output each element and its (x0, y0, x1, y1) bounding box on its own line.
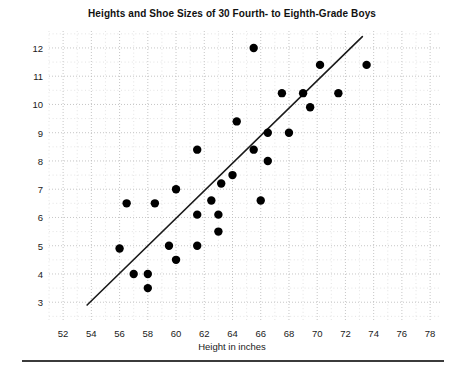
y-tick-label: 3 (17, 297, 43, 308)
y-tick-label: 8 (17, 155, 43, 166)
y-tick-label: 4 (17, 268, 43, 279)
data-point (334, 89, 342, 97)
data-point (214, 210, 222, 218)
data-point (278, 89, 286, 97)
chart-title: Heights and Shoe Sizes of 30 Fourth- to … (0, 8, 464, 19)
y-tick-label: 11 (17, 71, 43, 82)
scatter-plot-figure: Heights and Shoe Sizes of 30 Fourth- to … (0, 0, 464, 367)
data-point (362, 61, 370, 69)
data-point (264, 157, 272, 165)
x-tick-label: 62 (199, 328, 210, 339)
x-tick-label: 74 (368, 328, 379, 339)
y-tick-label: 12 (17, 42, 43, 53)
x-tick-label: 58 (143, 328, 154, 339)
data-point (122, 199, 130, 207)
data-point (115, 244, 123, 252)
data-point (249, 145, 257, 153)
x-tick-label: 68 (284, 328, 295, 339)
data-point (193, 145, 201, 153)
data-point (257, 196, 265, 204)
data-point (129, 270, 137, 278)
data-point (207, 196, 215, 204)
plot-area (49, 31, 440, 322)
data-point (217, 179, 225, 187)
bottom-divider (22, 360, 444, 362)
x-axis-label: Height in inches (0, 341, 464, 352)
data-point (151, 199, 159, 207)
data-point (144, 284, 152, 292)
x-tick-label: 66 (255, 328, 266, 339)
data-point (228, 171, 236, 179)
data-point (249, 44, 257, 52)
data-point (193, 242, 201, 250)
x-tick-label: 72 (340, 328, 351, 339)
data-point (316, 61, 324, 69)
x-tick-label: 78 (425, 328, 436, 339)
y-tick-label: 6 (17, 212, 43, 223)
data-point (285, 129, 293, 137)
x-tick-label: 64 (227, 328, 238, 339)
y-tick-label: 5 (17, 240, 43, 251)
x-tick-label: 54 (86, 328, 97, 339)
x-tick-label: 76 (397, 328, 408, 339)
trend-line (87, 37, 362, 305)
data-point (144, 270, 152, 278)
data-layer (49, 31, 440, 322)
data-point (172, 185, 180, 193)
data-point (165, 242, 173, 250)
data-point (233, 117, 241, 125)
x-tick-label: 56 (114, 328, 125, 339)
data-point (306, 103, 314, 111)
x-tick-label: 52 (58, 328, 69, 339)
y-tick-label: 9 (17, 127, 43, 138)
y-tick-label: 10 (17, 99, 43, 110)
data-point (264, 129, 272, 137)
data-point (214, 227, 222, 235)
data-point (299, 89, 307, 97)
x-tick-label: 70 (312, 328, 323, 339)
data-point (193, 210, 201, 218)
x-tick-label: 60 (171, 328, 182, 339)
y-tick-label: 7 (17, 184, 43, 195)
data-point (172, 256, 180, 264)
